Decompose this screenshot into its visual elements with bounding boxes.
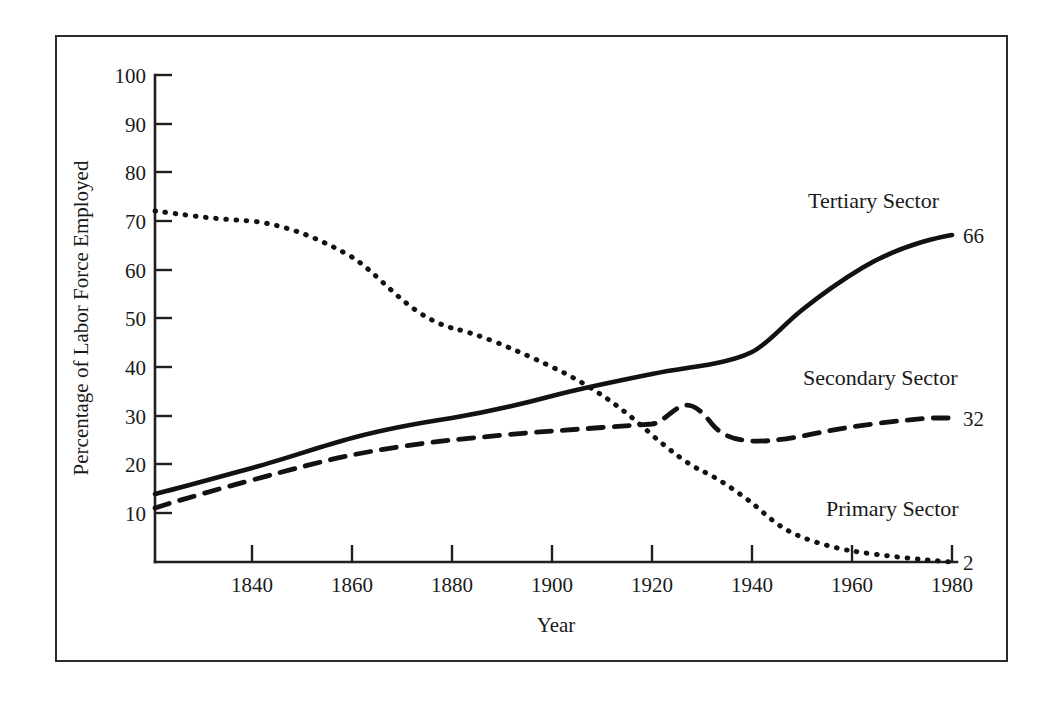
figure-border — [55, 35, 1008, 662]
figure-root: 100 90 80 70 60 50 40 30 20 10 1840 1860… — [0, 0, 1057, 704]
